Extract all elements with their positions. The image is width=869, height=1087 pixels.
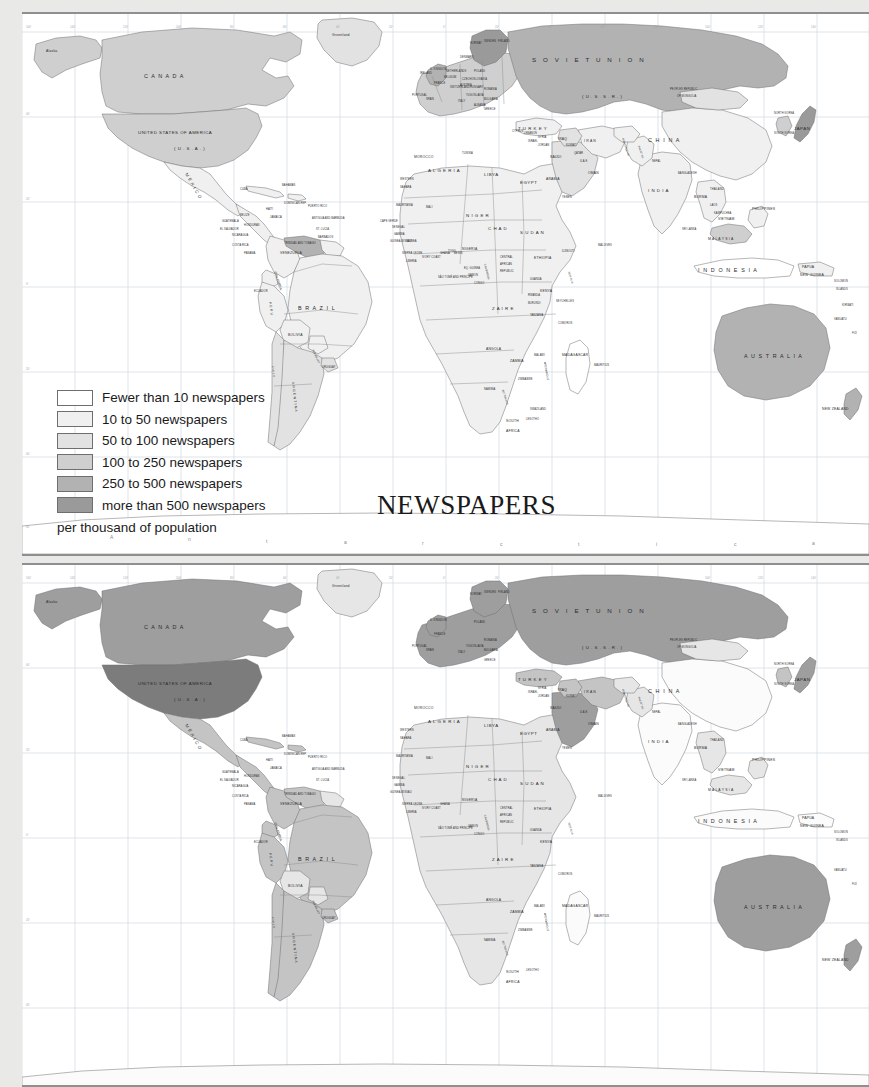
legend-swatch — [57, 454, 93, 470]
legend-label: Fewer than 10 newspapers — [102, 391, 265, 405]
legend-label: more than 500 newspapers — [102, 499, 266, 513]
map-title-newspapers: NEWSPAPERS — [377, 490, 556, 521]
legend-swatch — [57, 476, 93, 492]
map-canvas-television: Alaska C A N A D A UNITED STATES OF AMER… — [22, 565, 869, 1085]
legend-item: Fewer than 10 newspapers — [57, 387, 266, 409]
legend-swatch — [57, 433, 93, 449]
world-map-television-svg: Alaska C A N A D A UNITED STATES OF AMER… — [22, 565, 869, 1085]
map-panel-newspapers: Alaska C A N A D A UNITED STATES OF AMER… — [22, 12, 869, 556]
legend-newspapers: Fewer than 10 newspapers 10 to 50 newspa… — [57, 387, 266, 535]
legend-swatch — [57, 497, 93, 513]
legend-item: 50 to 100 newspapers — [57, 430, 266, 452]
legend-footnote: per thousand of population — [57, 520, 266, 535]
legend-label: 100 to 250 newspapers — [102, 456, 242, 470]
legend-label: 250 to 500 newspapers — [102, 477, 242, 491]
legend-item: more than 500 newspapers — [57, 495, 266, 517]
legend-item: 10 to 50 newspapers — [57, 409, 266, 431]
legend-item: 250 to 500 newspapers — [57, 473, 266, 495]
legend-swatch — [57, 390, 93, 406]
legend-label: 50 to 100 newspapers — [102, 434, 235, 448]
map-panel-television: Alaska C A N A D A UNITED STATES OF AMER… — [22, 563, 869, 1087]
legend-item: 100 to 250 newspapers — [57, 452, 266, 474]
legend-label: 10 to 50 newspapers — [102, 413, 227, 427]
legend-swatch — [57, 411, 93, 427]
